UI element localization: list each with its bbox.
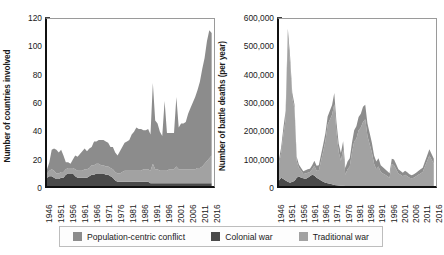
x-tick-label: 2011 (200, 191, 210, 223)
x-tick-label: 1986 (140, 191, 150, 223)
legend-swatch-icon (73, 232, 82, 241)
x-tick-label: 1966 (92, 191, 102, 223)
plot-area-battle-deaths (277, 18, 437, 188)
legend-item-population-centric: Population-centric conflict (73, 232, 185, 242)
chart-panel-countries-involved: Number of countries involved 02040608010… (0, 0, 218, 220)
x-tick-label: 1961 (310, 191, 320, 223)
x-tick-label: 1976 (116, 191, 126, 223)
y-tick-label: 600,000 (244, 13, 274, 23)
legend-label: Colonial war (225, 232, 272, 242)
y-tick-label: 100 (28, 41, 42, 51)
x-tick-label: 1981 (355, 191, 365, 223)
x-tick-label: 2006 (411, 191, 421, 223)
x-axis-ticks-left: 1946195119561961196619711976198119861991… (0, 191, 215, 225)
area-chart-countries-involved (47, 19, 214, 186)
x-tick-label: 1996 (389, 191, 399, 223)
area-series-population-centric-conflict (47, 30, 212, 173)
x-tick-label: 2001 (400, 191, 410, 223)
y-tick-label: 300,000 (244, 98, 274, 108)
chart-panel-battle-deaths: Number of battle deaths (per year) 0100,… (215, 0, 440, 220)
x-tick-label: 1971 (332, 191, 342, 223)
x-tick-label: 1991 (152, 191, 162, 223)
legend-item-traditional: Traditional war (299, 232, 369, 242)
x-tick-label: 1991 (377, 191, 387, 223)
x-tick-label: 2016 (434, 191, 444, 223)
x-tick-label: 1946 (276, 191, 286, 223)
y-tick-label: 400,000 (244, 70, 274, 80)
y-tick-label: 40 (33, 126, 42, 136)
legend-label: Traditional war (313, 232, 369, 242)
x-tick-label: 2006 (188, 191, 198, 223)
y-tick-label: 120 (28, 13, 42, 23)
y-axis-label-right: Number of battle deaths (per year) (215, 0, 229, 212)
y-tick-label: 500,000 (244, 41, 274, 51)
x-tick-label: 1951 (56, 191, 66, 223)
y-axis-label-left: Number of countries involved (0, 0, 14, 212)
x-tick-label: 1956 (299, 191, 309, 223)
y-tick-label: 20 (33, 155, 42, 165)
x-tick-label: 1981 (128, 191, 138, 223)
legend-item-colonial: Colonial war (211, 232, 272, 242)
y-tick-label: 200,000 (244, 126, 274, 136)
x-tick-label: 1946 (44, 191, 54, 223)
x-tick-label: 1976 (344, 191, 354, 223)
x-tick-label: 1951 (287, 191, 297, 223)
x-tick-label: 1956 (68, 191, 78, 223)
y-tick-label: 100,000 (244, 155, 274, 165)
chart-legend: Population-centric conflictColonial warT… (59, 226, 383, 247)
x-tick-label: 1966 (321, 191, 331, 223)
legend-swatch-icon (299, 232, 308, 241)
x-axis-ticks-right: 1946195119561961196619711976198119861991… (215, 191, 437, 225)
area-chart-battle-deaths (279, 19, 436, 186)
x-tick-label: 1971 (104, 191, 114, 223)
area-series-traditional-war (279, 37, 434, 186)
x-tick-label: 1961 (80, 191, 90, 223)
x-tick-label: 2011 (422, 191, 432, 223)
y-tick-label: 60 (33, 98, 42, 108)
x-tick-label: 2001 (176, 191, 186, 223)
x-tick-label: 1996 (164, 191, 174, 223)
x-tick-label: 1986 (366, 191, 376, 223)
y-tick-label: 80 (33, 70, 42, 80)
plot-area-countries-involved (45, 18, 215, 188)
legend-label: Population-centric conflict (87, 232, 185, 242)
legend-swatch-icon (211, 232, 220, 241)
